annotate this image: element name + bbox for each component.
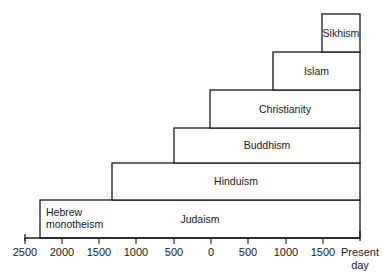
hinduism-band-label: Hinduism xyxy=(112,175,360,187)
sikhism-band-label: Sikhism xyxy=(322,27,360,39)
buddhism-band-label: Buddhism xyxy=(174,139,360,151)
christianity-band-label: Christianity xyxy=(210,103,360,115)
religions-timeline-chart: Sikhism Islam Christianity Buddhism Hind… xyxy=(0,0,389,280)
islam-band-label: Islam xyxy=(273,65,360,77)
axis-label-present-day-line1: Present xyxy=(334,246,386,259)
judaism-band-label: Judaism xyxy=(120,213,280,225)
hebrew-monotheism-label: Hebrew monotheism xyxy=(46,206,116,230)
axis-label-present-day-line2: day xyxy=(334,259,386,272)
